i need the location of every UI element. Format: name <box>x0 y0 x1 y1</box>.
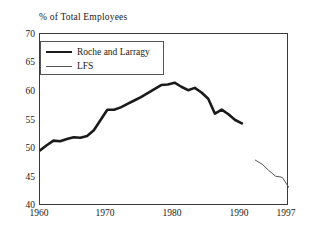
x-tick-label: 1997 <box>266 208 306 218</box>
y-tick-label: 70 <box>9 29 35 39</box>
x-tick-label: 1960 <box>19 208 59 218</box>
chart-figure: % of Total Employees 70 65 60 55 50 45 4… <box>0 0 313 238</box>
x-tick-label: 1980 <box>152 208 192 218</box>
series-line-roche-and-larragy <box>40 83 242 151</box>
y-tick-label: 65 <box>9 57 35 67</box>
y-tick-label: 60 <box>9 86 35 96</box>
x-tick-label: 1970 <box>85 208 125 218</box>
x-tick-label: 1990 <box>219 208 259 218</box>
series-line-lfs <box>255 160 289 188</box>
y-tick-label: 55 <box>9 115 35 125</box>
legend: Roche and Larragy LFS <box>40 41 164 75</box>
legend-item-roche-and-larragy: Roche and Larragy <box>46 45 159 59</box>
y-tick-label: 45 <box>9 172 35 182</box>
y-tick-label: 50 <box>9 143 35 153</box>
legend-label: Roche and Larragy <box>77 47 150 57</box>
legend-item-lfs: LFS <box>46 59 159 73</box>
y-axis-label: % of Total Employees <box>39 12 127 22</box>
legend-label: LFS <box>77 61 93 71</box>
legend-swatch-thick-line-icon <box>46 51 72 53</box>
legend-swatch-thin-line-icon <box>46 66 72 67</box>
